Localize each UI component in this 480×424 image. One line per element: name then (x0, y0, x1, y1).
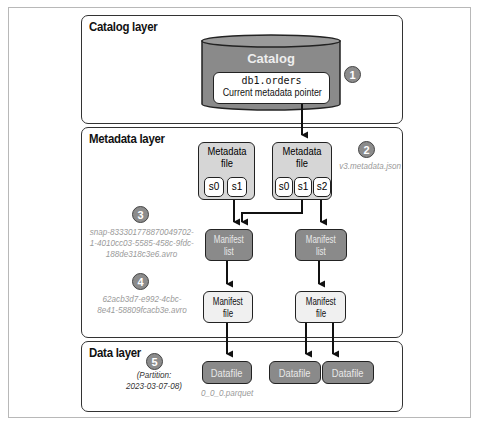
datafile-1: Datafile (202, 361, 252, 384)
manifest-list-1: Manifestlist (205, 229, 253, 261)
snap-line1: snap-833301778870049702- (90, 227, 194, 238)
manifest-list-1-line1: Manifest (214, 233, 244, 245)
datafile-2: Datafile (269, 361, 321, 384)
metadata-file-2-line1: Metadata (283, 145, 322, 157)
metadata-file-2: Metadata file s0 s1 s2 (272, 142, 332, 200)
snapshot-s1: s1 (294, 177, 312, 197)
badge-3: 3 (132, 206, 149, 223)
manifest-line2: 8e41-58809fcacb3e.avro (95, 305, 189, 316)
manifest-file-2-line1: Manifest (305, 295, 335, 307)
snapshot-avro-filename: snap-833301778870049702- 1-4010cc03-5585… (90, 227, 194, 260)
manifest-list-2-line1: Manifest (306, 233, 336, 245)
datafile-3-label: Datafile (332, 367, 364, 379)
badge-5: 5 (146, 353, 163, 370)
partition-note: (Partition: 2023-03-07-08) (120, 370, 188, 392)
snap-line3: 188de318c3e6.avro (90, 249, 194, 260)
manifest-list-2-line2: list (316, 245, 326, 257)
manifest-file-1: Manifestfile (203, 291, 253, 323)
snapshot-s2: s2 (313, 177, 331, 197)
snapshot-s0: s0 (204, 177, 224, 197)
manifest-list-2: Manifestlist (295, 229, 347, 261)
partition-line2: 2023-03-07-08) (120, 381, 188, 392)
snapshot-s1: s1 (227, 177, 247, 197)
badge-2: 2 (358, 141, 375, 158)
metadata-file-1-line2: file (207, 157, 246, 169)
manifest-file-2-line2: file (315, 307, 325, 319)
partition-line1: (Partition: (120, 370, 188, 381)
manifest-file-1-line1: Manifest (213, 295, 243, 307)
manifest-file-2: Manifestfile (295, 291, 346, 323)
manifest-file-1-line2: file (223, 307, 233, 319)
snap-line2: 1-4010cc03-5585-458c-9fdc- (90, 238, 194, 249)
datafile-1-label: Datafile (211, 367, 243, 379)
snapshot-s0: s0 (275, 177, 293, 197)
datafile-3: Datafile (322, 361, 374, 384)
badge-4: 4 (132, 273, 149, 290)
metadata-file-2-line2: file (283, 157, 322, 169)
manifest-avro-filename: 62acb3d7-e992-4cbc- 8e41-58809fcacb3e.av… (95, 294, 189, 316)
datafile-2-label: Datafile (279, 367, 311, 379)
metadata-json-filename: v3.metadata.json (339, 161, 398, 172)
manifest-list-1-line2: list (224, 245, 234, 257)
metadata-file-1-line1: Metadata (207, 145, 246, 157)
manifest-line1: 62acb3d7-e992-4cbc- (95, 294, 189, 305)
badge-1: 1 (344, 66, 361, 83)
metadata-file-1: Metadata file s0 s1 (198, 142, 255, 200)
datafile-filename: 0_0_0.parquet (201, 388, 253, 399)
